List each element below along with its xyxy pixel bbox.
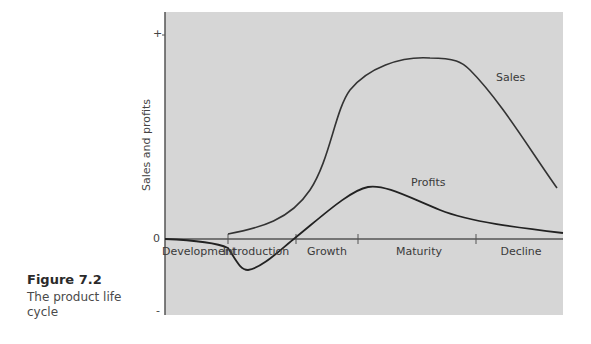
stage-decline: Decline [500,245,541,258]
figure-caption: Figure 7.2 The product life cycle [27,272,147,320]
stage-growth: Growth [307,245,347,258]
figure-number: Figure 7.2 [27,272,147,287]
stage-maturity: Maturity [396,245,442,258]
y-tick-plus: + [153,27,162,40]
sales-curve [228,58,557,234]
y-tick-zero: 0 [153,232,160,245]
stage-introduction: Introduction [223,245,290,258]
y-tick-minus: - [156,304,160,317]
y-axis-label: Sales and profits [140,99,153,191]
profits-label: Profits [411,176,445,189]
sales-label: Sales [496,71,525,84]
figure-title: The product life cycle [27,290,147,320]
